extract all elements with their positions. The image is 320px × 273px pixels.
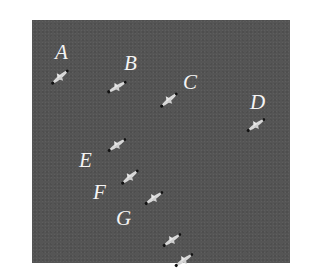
- bird-flock-photo: [32, 20, 290, 263]
- bird-icon: [105, 80, 129, 94]
- bird-label-e: E: [79, 150, 92, 171]
- bird-icon: [160, 233, 184, 247]
- bird-icon: [105, 138, 129, 152]
- bird-icon: [48, 70, 72, 84]
- bird-icon: [157, 93, 181, 107]
- bird-label-a: A: [55, 42, 68, 63]
- bird-icon: [118, 170, 142, 184]
- bird-label-b: B: [124, 53, 137, 74]
- bird-label-d: D: [250, 92, 265, 113]
- bird-label-c: C: [183, 72, 197, 93]
- bird-icon: [244, 118, 268, 132]
- bird-icon: [172, 253, 196, 267]
- bird-icon: [142, 191, 166, 205]
- bird-label-f: F: [93, 182, 106, 203]
- bird-label-g: G: [116, 208, 131, 229]
